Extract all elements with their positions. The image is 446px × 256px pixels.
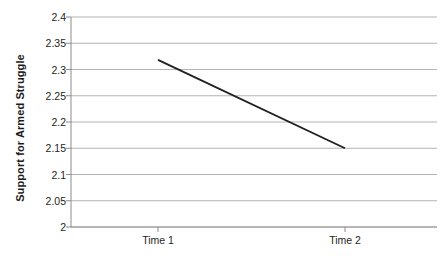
plot-area bbox=[0, 0, 446, 256]
x-tick-label-time-2: Time 2 bbox=[329, 234, 361, 246]
data-series-line bbox=[158, 60, 345, 148]
x-axis-ticks bbox=[158, 227, 345, 232]
gridlines bbox=[71, 17, 437, 201]
y-axis-ticks bbox=[66, 17, 71, 227]
x-tick-label-time-1: Time 1 bbox=[142, 234, 174, 246]
line-chart: Support for Armed Struggle 2.4 2.35 2.3 … bbox=[0, 0, 446, 256]
